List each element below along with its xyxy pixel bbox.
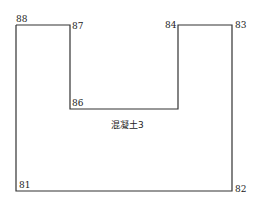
point-label-87: 87 — [72, 22, 83, 31]
polygon-boundary — [16, 25, 232, 191]
point-label-82: 82 — [235, 185, 246, 194]
point-label-83: 83 — [235, 21, 246, 30]
region-label: 混凝土3 — [111, 121, 144, 130]
point-label-84: 84 — [165, 21, 176, 30]
point-label-81: 81 — [19, 181, 30, 190]
concrete-outline — [0, 0, 262, 202]
point-label-86: 86 — [72, 99, 83, 108]
point-label-88: 88 — [16, 15, 27, 24]
